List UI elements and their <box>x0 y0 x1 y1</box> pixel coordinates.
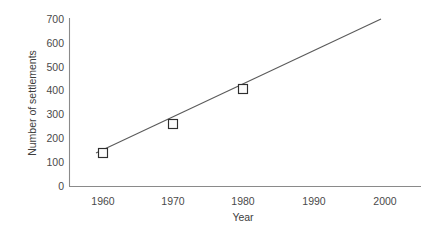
y-tick-label-100: 100 <box>46 156 64 168</box>
x-tick-label-1990: 1990 <box>302 195 326 207</box>
x-tick-label-1970: 1970 <box>161 195 185 207</box>
x-tick-label-1980: 1980 <box>231 195 255 207</box>
data-point-marker <box>239 85 248 94</box>
y-tick-label-300: 300 <box>46 108 64 120</box>
chart-plot-area: Number of settlements 700 600 500 400 30… <box>0 0 429 229</box>
y-axis-title: Number of settlements <box>26 50 38 156</box>
x-tick-label-2000: 2000 <box>373 195 397 207</box>
chart-figure: Number of settlements 700 600 500 400 30… <box>0 0 429 229</box>
y-tick-label-200: 200 <box>46 132 64 144</box>
y-tick-label-400: 400 <box>46 84 64 96</box>
y-tick-label-600: 600 <box>46 37 64 49</box>
data-point-marker <box>99 149 108 158</box>
y-tick-label-0: 0 <box>58 180 64 192</box>
x-axis-title: Year <box>232 211 254 223</box>
y-tick-label-500: 500 <box>46 61 64 73</box>
x-tick-label-1960: 1960 <box>91 195 115 207</box>
data-point-marker <box>169 120 178 129</box>
y-tick-label-700: 700 <box>46 13 64 25</box>
